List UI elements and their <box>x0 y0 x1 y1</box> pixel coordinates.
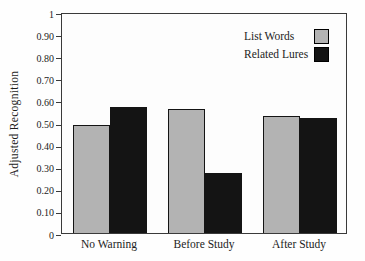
y-tick-mark-0-90 <box>56 36 61 37</box>
x-category-label-after-study: After Study <box>251 238 347 250</box>
y-tick-mark-0-30 <box>56 169 61 170</box>
y-tick-mark-0-20 <box>56 191 61 192</box>
bar-related-lures-before-study <box>205 173 242 233</box>
y-tick-label-0-30: 0.30 <box>20 163 54 174</box>
y-axis-title: Adjusted Recognition <box>8 71 20 178</box>
bar-related-lures-after-study <box>300 118 337 233</box>
legend-swatch-related-lures <box>314 47 329 62</box>
y-tick-label-0-60: 0.60 <box>20 97 54 108</box>
bar-list-words-after-study <box>263 116 300 233</box>
y-tick-label-0-70: 0.70 <box>20 75 54 86</box>
bar-chart-figure: Adjusted Recognition 10.900.800.700.600.… <box>0 0 365 261</box>
y-tick-label-0-90: 0.90 <box>20 31 54 42</box>
y-tick-mark-0-10 <box>56 213 61 214</box>
y-tick-label-0-80: 0.80 <box>20 53 54 64</box>
bar-list-words-before-study <box>168 109 205 233</box>
plot-area: 10.900.800.700.600.500.400.300.200.100 L… <box>61 13 347 234</box>
y-tick-label-0: 0 <box>20 230 54 241</box>
legend-item-related-lures: Related Lures <box>244 47 329 61</box>
legend-item-list-words: List Words <box>244 29 329 43</box>
y-tick-mark-0-50 <box>56 125 61 126</box>
y-tick-mark-0-40 <box>56 147 61 148</box>
y-tick-label-0-10: 0.10 <box>20 207 54 218</box>
y-tick-mark-0-80 <box>56 58 61 59</box>
y-tick-label-0-40: 0.40 <box>20 141 54 152</box>
legend-label-related-lures: Related Lures <box>244 48 314 60</box>
y-tick-mark-1 <box>56 14 61 15</box>
bar-related-lures-no-warning <box>110 107 147 233</box>
legend-label-list-words: List Words <box>244 30 314 42</box>
y-tick-mark-0 <box>56 235 61 236</box>
legend-swatch-list-words <box>314 29 329 44</box>
x-category-label-no-warning: No Warning <box>61 238 157 250</box>
y-tick-label-0-20: 0.20 <box>20 185 54 196</box>
y-tick-mark-0-60 <box>56 102 61 103</box>
legend: List Words Related Lures <box>244 29 329 65</box>
bar-list-words-no-warning <box>73 125 110 233</box>
y-tick-label-0-50: 0.50 <box>20 119 54 130</box>
x-category-label-before-study: Before Study <box>156 238 252 250</box>
y-tick-label-1: 1 <box>20 9 54 20</box>
y-tick-mark-0-70 <box>56 80 61 81</box>
